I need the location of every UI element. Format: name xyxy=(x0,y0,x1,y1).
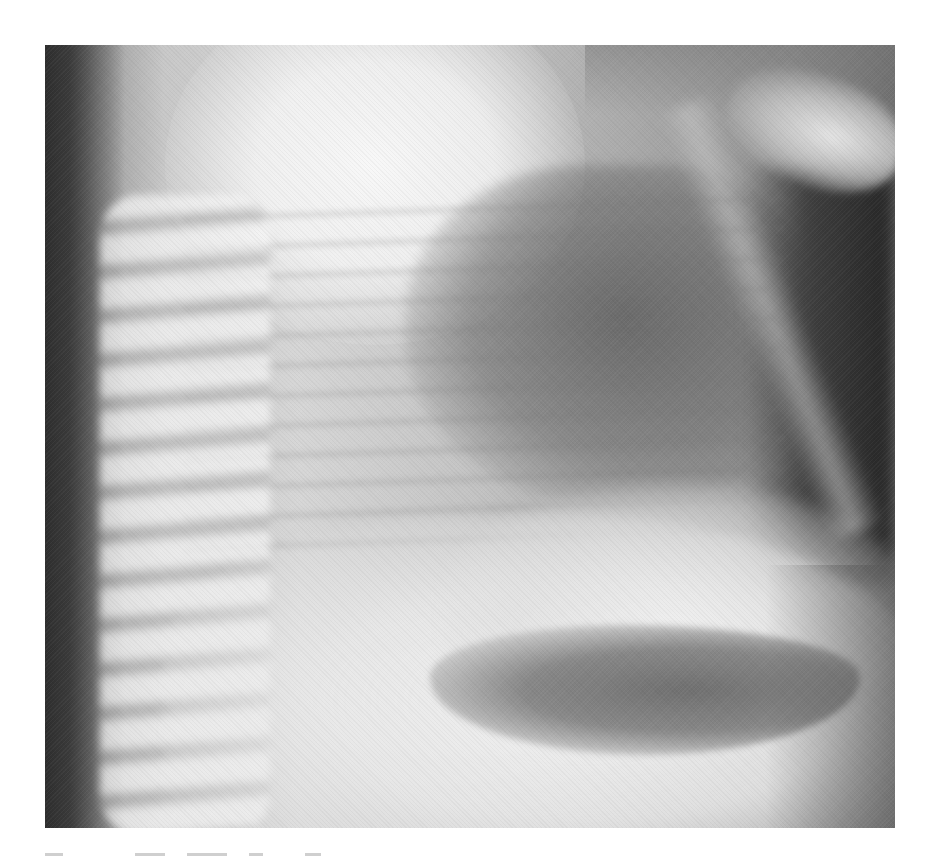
caption-fragment xyxy=(135,853,165,856)
caption-fragment xyxy=(249,853,263,856)
outer-air-band xyxy=(745,165,895,585)
shoulder-bone xyxy=(712,48,895,213)
liver-shadow xyxy=(165,515,895,828)
spine-column xyxy=(100,195,270,828)
scapula-edge xyxy=(657,94,885,543)
caption-fragment xyxy=(45,853,63,856)
radiograph-figure xyxy=(45,45,895,828)
diaphragm-dome xyxy=(445,485,895,695)
upper-right-shadow xyxy=(585,45,895,115)
gastric-air-bubble xyxy=(430,625,860,755)
figure-caption xyxy=(45,848,343,857)
halftone-grain xyxy=(45,45,895,828)
left-soft-tissue-edge xyxy=(45,45,125,828)
caption-fragment xyxy=(187,853,227,856)
radiograph-base-tone xyxy=(45,45,895,828)
rib-bands xyxy=(185,195,785,555)
lower-right-shadow xyxy=(765,565,895,828)
caption-fragment xyxy=(305,853,321,856)
lung-field xyxy=(405,165,805,505)
mediastinum-bright-area xyxy=(165,45,585,345)
